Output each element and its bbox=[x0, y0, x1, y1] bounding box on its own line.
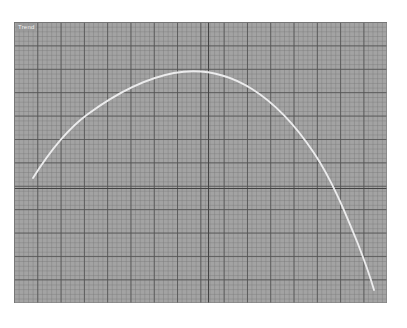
chart-window: Trend bbox=[0, 0, 407, 328]
plot-area[interactable]: Trend bbox=[14, 22, 387, 303]
y-axis-line bbox=[208, 22, 209, 303]
plot-border bbox=[14, 22, 387, 303]
x-axis-line bbox=[14, 188, 387, 189]
series-label: Trend bbox=[16, 23, 36, 31]
trend-curve-path bbox=[33, 71, 374, 290]
trend-curve bbox=[14, 22, 387, 303]
minor-gridlines bbox=[14, 22, 387, 303]
major-gridlines bbox=[14, 22, 387, 303]
